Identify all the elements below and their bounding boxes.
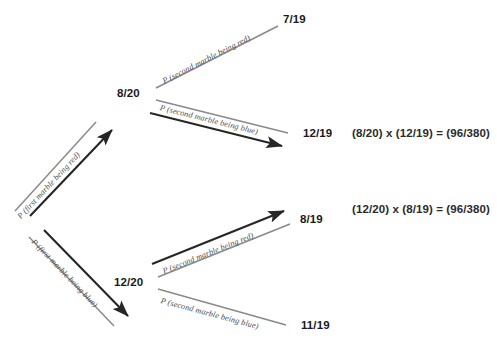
branch-arrow-first-red — [30, 130, 112, 216]
tree-branch-lines — [0, 0, 497, 345]
branch-arrow-second-red-lower — [152, 211, 284, 264]
branch-arrow-first-blue — [44, 230, 128, 316]
branch-rail-second-blue-upper — [156, 100, 288, 133]
node-first-red-probability: 8/20 — [117, 87, 140, 99]
branch-rail-first-red — [15, 122, 96, 211]
leaf-red-red-probability: 7/19 — [283, 13, 306, 25]
leaf-blue-red-probability: 8/19 — [300, 213, 323, 225]
product-blue-red: (12/20) x (8/19) = (96/380) — [352, 203, 490, 215]
product-red-blue: (8/20) x (12/19) = (96/380) — [352, 127, 490, 139]
leaf-blue-blue-probability: 11/19 — [301, 319, 330, 331]
leaf-red-blue-probability: 12/19 — [303, 127, 332, 139]
probability-tree-diagram: P (first marble being red) P (first marb… — [0, 0, 497, 345]
node-first-blue-probability: 12/20 — [114, 276, 143, 288]
